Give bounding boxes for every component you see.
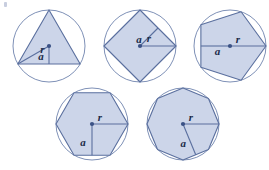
octagon-in-circle: ra (147, 88, 219, 160)
shape-layer: rarararara (13, 10, 266, 160)
octagon-in-circle-radius-label: r (189, 111, 194, 123)
hexagon-in-circle-apothem-label: a (80, 136, 86, 148)
bottom-edge-wash (0, 167, 269, 170)
pentagon-in-circle-center-dot (228, 44, 232, 48)
square-in-circle-radius-label: r (147, 32, 152, 44)
pentagon-in-circle: ra (194, 10, 266, 82)
page-artifact-speck (4, 2, 7, 7)
hexagon-in-circle-radius-label: r (98, 111, 103, 123)
hexagon-in-circle-center-dot (90, 122, 94, 126)
hexagon-in-circle: ra (56, 88, 128, 160)
pentagon-in-circle-radius-label: r (236, 33, 241, 45)
octagon-in-circle-center-dot (181, 122, 185, 126)
triangle-in-circle: ra (13, 10, 85, 82)
square-in-circle: ra (104, 10, 176, 82)
triangle-in-circle-center-dot (47, 44, 51, 48)
square-in-circle-apothem-label: a (136, 33, 142, 45)
triangle-in-circle-apothem-label: a (38, 50, 44, 62)
figure-canvas: Regular polygons inscribed in circles wi… (0, 0, 269, 170)
octagon-in-circle-apothem-label: a (181, 137, 187, 149)
inscribed-polygons-figure: Regular polygons inscribed in circles wi… (0, 0, 269, 170)
pentagon-in-circle-apothem-label: a (215, 45, 221, 57)
